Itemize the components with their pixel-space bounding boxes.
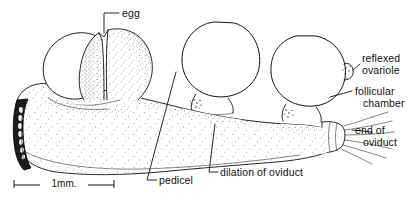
label-end-of-oviduct-line1: end of — [355, 124, 385, 136]
label-dilation-of-oviduct: dilation of oviduct — [220, 166, 303, 178]
label-egg: egg — [122, 7, 140, 19]
label-follicular-chamber-line2: chamber — [363, 97, 405, 109]
ovariole-group-right — [271, 34, 353, 133]
ovariole-group-middle — [180, 22, 266, 123]
label-pedicel: pedicel — [159, 174, 193, 186]
scale-bar: 1mm. — [14, 177, 114, 190]
label-reflexed-ovariole-line1: reflexed — [362, 52, 400, 64]
label-end-of-oviduct-line2: oviduct — [363, 136, 397, 148]
scale-bar-label: 1mm. — [52, 178, 77, 189]
label-reflexed-ovariole-line2: ovariole — [362, 64, 400, 76]
figure-root: egg reflexed ovariole follicular chamber… — [0, 0, 414, 198]
label-follicular-chamber-line1: follicular — [355, 85, 395, 97]
leader-reflexed-ovariole — [353, 64, 360, 70]
ovary-diagram-svg: egg reflexed ovariole follicular chamber… — [0, 0, 414, 198]
